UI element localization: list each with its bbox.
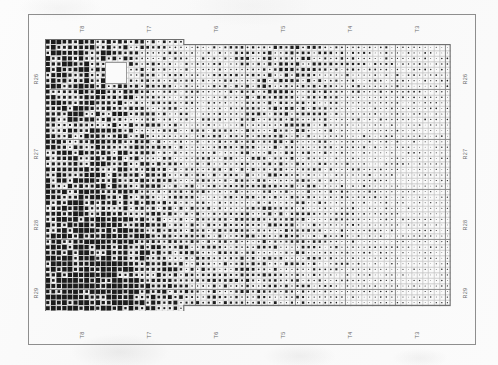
axis-label-top-0: T8	[79, 26, 85, 33]
axis-label-bottom-0: T8	[79, 332, 85, 339]
density-grid-canvas[interactable]	[45, 39, 451, 311]
plot-area: T8 T7 T6 T5 T4 T3 T8 T7 T6 T5 T4 T3 R26 …	[0, 0, 498, 365]
axis-label-bottom-3: T5	[280, 332, 286, 339]
axis-label-bottom-1: T7	[146, 332, 152, 339]
axis-label-top-2: T6	[213, 26, 219, 33]
axis-label-right-2: R28	[462, 220, 468, 231]
axis-label-top-5: T3	[414, 26, 420, 33]
axis-label-left-1: R27	[33, 149, 39, 160]
axis-label-bottom-5: T3	[414, 332, 420, 339]
axis-label-right-3: R29	[462, 288, 468, 299]
axis-label-left-0: R26	[33, 74, 39, 85]
axis-label-bottom-4: T4	[347, 332, 353, 339]
axis-label-top-4: T4	[347, 26, 353, 33]
axis-label-top-1: T7	[146, 26, 152, 33]
axis-label-left-2: R28	[33, 220, 39, 231]
axis-label-top-3: T5	[280, 26, 286, 33]
axis-label-right-1: R27	[462, 149, 468, 160]
axis-label-bottom-2: T6	[213, 332, 219, 339]
axis-label-left-3: R29	[33, 288, 39, 299]
axis-label-right-0: R26	[462, 74, 468, 85]
